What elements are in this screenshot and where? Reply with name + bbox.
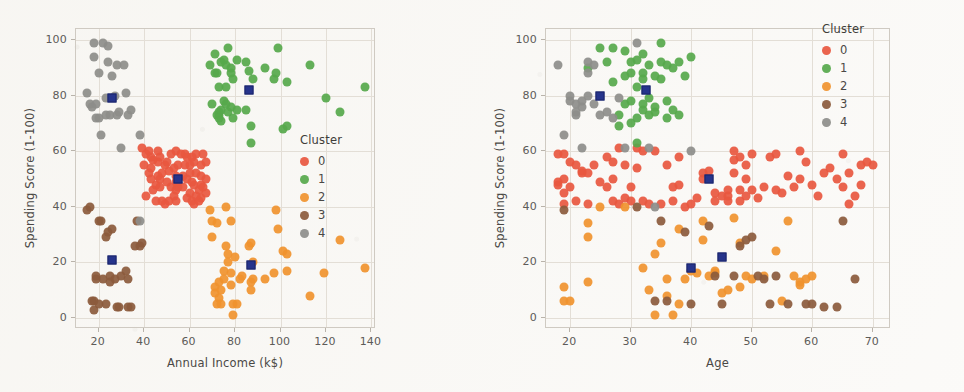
- scatter-point-cluster-4: [92, 100, 101, 109]
- scatter-point-cluster-1: [360, 83, 369, 92]
- scatter-point-cluster-4: [578, 144, 587, 153]
- cluster-centroid-0: [174, 175, 183, 184]
- legend-swatch-icon: [300, 229, 309, 238]
- scatter-point-cluster-1: [663, 97, 672, 106]
- scatter-point-cluster-0: [693, 194, 702, 203]
- scatter-point-cluster-3: [820, 302, 829, 311]
- scatter-point-cluster-3: [705, 222, 714, 231]
- scatter-point-cluster-1: [644, 61, 653, 70]
- scatter-point-cluster-0: [169, 191, 178, 200]
- scatter-point-cluster-3: [687, 300, 696, 309]
- x-tick-label: 50: [744, 335, 758, 348]
- scatter-point-cluster-0: [201, 188, 210, 197]
- legend-entry-cluster-1[interactable]: 1: [822, 59, 864, 77]
- scatter-point-cluster-2: [274, 225, 283, 234]
- scatter-point-cluster-0: [584, 200, 593, 209]
- scatter-point-cluster-0: [741, 175, 750, 184]
- x-tick-mark: [370, 328, 371, 332]
- scatter-point-cluster-1: [249, 75, 258, 84]
- scatter-point-cluster-1: [226, 102, 235, 111]
- scatter-point-cluster-2: [663, 275, 672, 284]
- x-tick-mark: [280, 328, 281, 332]
- x-tick-mark: [569, 328, 570, 332]
- scatter-point-cluster-2: [584, 277, 593, 286]
- y-tick-label: 40: [41, 199, 67, 212]
- scatter-point-cluster-4: [560, 130, 569, 139]
- scatter-point-cluster-0: [796, 175, 805, 184]
- scatter-point-cluster-2: [247, 238, 256, 247]
- legend-entry-cluster-2[interactable]: 2: [300, 188, 342, 206]
- scatter-point-cluster-3: [759, 275, 768, 284]
- scatter-point-cluster-1: [626, 97, 635, 106]
- scatter-point-cluster-0: [790, 183, 799, 192]
- legend-entries-right: 01234: [822, 41, 864, 131]
- scatter-point-cluster-2: [560, 283, 569, 292]
- gridline-vertical: [371, 29, 372, 327]
- legend-swatch-icon: [300, 193, 309, 202]
- scatter-point-cluster-0: [167, 150, 176, 159]
- scatter-point-cluster-2: [566, 297, 575, 306]
- y-tick-mark: [541, 261, 545, 262]
- scatter-point-cluster-0: [772, 150, 781, 159]
- scatter-point-cluster-2: [217, 286, 226, 295]
- legend-entry-cluster-2[interactable]: 2: [822, 77, 864, 95]
- gridline-vertical: [144, 29, 145, 327]
- scatter-point-cluster-2: [644, 286, 653, 295]
- x-tick-mark: [189, 328, 190, 332]
- scatter-point-cluster-1: [217, 116, 226, 125]
- legend-swatch-icon: [822, 100, 831, 109]
- y-tick-label: 60: [41, 144, 67, 157]
- scatter-point-cluster-0: [160, 200, 169, 209]
- scatter-point-cluster-2: [650, 250, 659, 259]
- scatter-point-cluster-2: [669, 311, 678, 320]
- scatter-point-cluster-0: [620, 161, 629, 170]
- scatter-point-cluster-1: [596, 44, 605, 53]
- scatter-point-cluster-4: [90, 38, 99, 47]
- scatter-point-cluster-1: [222, 83, 231, 92]
- scatter-point-cluster-0: [844, 200, 853, 209]
- scatter-point-cluster-2: [596, 202, 605, 211]
- scatter-point-cluster-2: [650, 311, 659, 320]
- legend-title-right: Cluster: [822, 22, 864, 36]
- y-tick-mark: [541, 206, 545, 207]
- gridline-vertical: [281, 29, 282, 327]
- scatter-point-cluster-4: [590, 61, 599, 70]
- legend-entry-cluster-1[interactable]: 1: [300, 170, 342, 188]
- legend-entry-cluster-3[interactable]: 3: [300, 206, 342, 224]
- scatter-point-cluster-3: [832, 302, 841, 311]
- panel-annual-income: 20406080100120140020406080100 Annual Inc…: [0, 0, 482, 392]
- legend-swatch-icon: [822, 82, 831, 91]
- cluster-centroid-4: [596, 91, 605, 100]
- scatter-point-cluster-1: [247, 122, 256, 131]
- scatter-point-cluster-1: [224, 44, 233, 53]
- legend-entry-cluster-0[interactable]: 0: [300, 152, 342, 170]
- legend-swatch-icon: [822, 46, 831, 55]
- scatter-point-cluster-0: [201, 158, 210, 167]
- scatter-point-cluster-3: [101, 300, 110, 309]
- scatter-point-cluster-1: [208, 100, 217, 109]
- scatter-point-cluster-1: [675, 58, 684, 67]
- scatter-point-cluster-0: [675, 180, 684, 189]
- legend-entry-cluster-0[interactable]: 0: [822, 41, 864, 59]
- y-tick-mark: [71, 261, 75, 262]
- x-tick-label: 80: [227, 335, 241, 348]
- scatter-point-cluster-1: [638, 75, 647, 84]
- scatter-point-cluster-0: [626, 183, 635, 192]
- scatter-point-cluster-3: [106, 277, 115, 286]
- scatter-point-cluster-2: [319, 269, 328, 278]
- scatter-point-cluster-1: [657, 38, 666, 47]
- scatter-point-cluster-0: [729, 169, 738, 178]
- y-tick-mark: [541, 39, 545, 40]
- legend-entry-cluster-3[interactable]: 3: [822, 95, 864, 113]
- legend-entry-cluster-4[interactable]: 4: [300, 224, 342, 242]
- scatter-point-cluster-4: [122, 88, 131, 97]
- scatter-point-cluster-1: [687, 52, 696, 61]
- legend-entry-cluster-4[interactable]: 4: [822, 113, 864, 131]
- y-tick-label: 0: [41, 310, 67, 323]
- x-axis-title-right: Age: [706, 356, 729, 370]
- legend-swatch-icon: [822, 64, 831, 73]
- x-tick-mark: [872, 328, 873, 332]
- scatter-point-cluster-3: [784, 300, 793, 309]
- gridline-vertical: [570, 29, 571, 327]
- scatter-point-cluster-3: [729, 272, 738, 281]
